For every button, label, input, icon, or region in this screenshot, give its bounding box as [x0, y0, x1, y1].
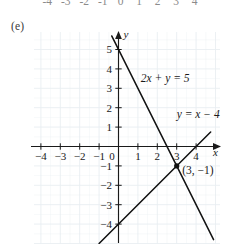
y-tick-label: −4	[100, 218, 112, 230]
x-tick-label: −3	[54, 150, 66, 162]
x-tick-label: 3	[174, 150, 180, 162]
x-axis-label: x	[212, 146, 218, 158]
coordinate-plot: −4−3−2−1123454321−1−2−3−40xy2x + y = 5y …	[0, 0, 241, 247]
plot-svg: −4−3−2−1123454321−1−2−3−40xy2x + y = 5y …	[0, 0, 241, 247]
series-line-1	[112, 36, 214, 240]
text-labels: −4−3−2−1123454321−1−2−3−40xy2x + y = 5y …	[35, 28, 220, 230]
y-tick-label: 2	[107, 102, 113, 114]
series-label-1: 2x + y = 5	[141, 72, 190, 85]
x-tick-label: −4	[35, 150, 47, 162]
series-line-2	[99, 132, 211, 244]
y-tick-label: 1	[107, 121, 113, 133]
annotation-markers	[174, 163, 179, 168]
x-tick-label: −2	[74, 150, 86, 162]
series-label-2: y = x − 4	[176, 108, 220, 121]
figure-panel: -4 -3 -2 -1 0 1 2 3 4 (e)	[0, 0, 241, 247]
y-axis-label: y	[123, 28, 129, 40]
x-tick-label: 1	[135, 150, 141, 162]
intersection-point	[174, 163, 179, 168]
x-tick-label: 4	[193, 150, 199, 162]
y-axis-arrowhead	[115, 31, 122, 39]
y-tick-label: 5	[107, 43, 113, 55]
y-tick-label: 4	[107, 63, 113, 75]
x-tick-label: 2	[155, 150, 161, 162]
intersection-point-label: (3, −1)	[182, 164, 214, 177]
origin-label: 0	[109, 150, 115, 162]
y-tick-label: 3	[107, 82, 113, 94]
y-tick-label: −3	[100, 199, 112, 211]
grid-lines	[34, 32, 220, 244]
y-tick-label: −2	[100, 179, 112, 191]
